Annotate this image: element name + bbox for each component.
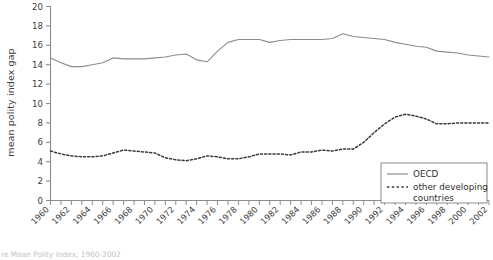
x-axis-tick-label: 1988 bbox=[321, 204, 343, 226]
legend-label-other-developing-countries: other developing bbox=[413, 182, 488, 192]
y-axis-tick-label: 20 bbox=[32, 2, 43, 12]
legend-label-oecd: OECD bbox=[413, 169, 439, 179]
chart-legend: OECDother developingcountries bbox=[381, 163, 488, 203]
data-series-group bbox=[51, 34, 490, 161]
figure-caption: re Mean Polity Index, 1960-2002 bbox=[1, 250, 121, 259]
x-axis-tick-label: 2000 bbox=[446, 204, 468, 226]
x-axis-tick-label: 2002 bbox=[467, 204, 489, 226]
series-line-2 bbox=[51, 114, 490, 161]
y-axis-tick-label: 16 bbox=[32, 40, 43, 50]
line-chart: 02468101214161820 1960196219641966196819… bbox=[0, 0, 493, 260]
y-axis-tick-label: 4 bbox=[38, 157, 43, 167]
x-axis-tick-label: 1984 bbox=[279, 204, 301, 226]
series-line-1 bbox=[51, 34, 490, 67]
x-axis-tick-label: 1972 bbox=[154, 204, 176, 226]
x-axis-tick-label: 1982 bbox=[258, 204, 280, 226]
y-axis: 02468101214161820 bbox=[32, 2, 50, 206]
x-axis-tick-label: 1964 bbox=[71, 204, 93, 226]
x-axis-tick-label: 1962 bbox=[50, 204, 72, 226]
y-axis-tick-label: 6 bbox=[38, 137, 43, 147]
x-axis-tick-label: 1960 bbox=[29, 204, 51, 226]
x-axis-tick-label: 1968 bbox=[112, 204, 134, 226]
x-axis-tick-label: 1992 bbox=[363, 204, 385, 226]
x-axis-tick-label: 1998 bbox=[425, 204, 447, 226]
x-axis-tick-label: 1996 bbox=[405, 204, 427, 226]
chart-figure: mean polity index gap 02468101214161820 … bbox=[0, 0, 493, 260]
y-axis-tick-label: 12 bbox=[32, 79, 43, 89]
y-axis-tick-label: 18 bbox=[32, 21, 43, 31]
x-axis: 1960196219641966196819701972197419761978… bbox=[29, 201, 490, 227]
y-axis-tick-label: 10 bbox=[32, 99, 43, 109]
x-axis-tick-label: 1974 bbox=[175, 204, 197, 226]
y-axis-tick-label: 2 bbox=[38, 176, 43, 186]
x-axis-tick-label: 1990 bbox=[342, 204, 364, 226]
x-axis-tick-label: 1976 bbox=[196, 204, 218, 226]
x-axis-tick-label: 1994 bbox=[384, 204, 406, 226]
x-axis-tick-label: 1980 bbox=[238, 204, 260, 226]
y-axis-tick-label: 8 bbox=[38, 118, 43, 128]
y-axis-tick-label: 14 bbox=[32, 60, 43, 70]
x-axis-tick-label: 1986 bbox=[300, 204, 322, 226]
y-axis-tick-label: 0 bbox=[38, 196, 43, 206]
x-axis-tick-label: 1970 bbox=[133, 204, 155, 226]
x-axis-tick-label: 1978 bbox=[217, 204, 239, 226]
legend-label-other-developing-countries-line2: countries bbox=[413, 193, 454, 203]
x-axis-tick-label: 1966 bbox=[91, 204, 113, 226]
